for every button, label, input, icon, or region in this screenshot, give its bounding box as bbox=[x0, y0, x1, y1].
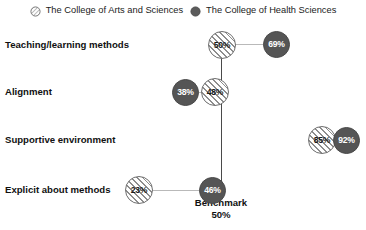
data-point-value: 85% bbox=[314, 136, 331, 145]
data-point-value: 50% bbox=[214, 41, 231, 50]
data-point-arts-alignment[interactable]: 48% bbox=[201, 78, 229, 106]
hatched-circle-icon bbox=[30, 6, 41, 17]
legend-label-health-sciences: The College of Health Sciences bbox=[206, 6, 336, 15]
data-point-value: 48% bbox=[207, 88, 224, 97]
data-point-health-teaching-learning-methods[interactable]: 69% bbox=[263, 31, 290, 58]
legend-label-arts-and-sciences: The College of Arts and Sciences bbox=[46, 6, 183, 15]
data-point-value: 23% bbox=[131, 186, 148, 195]
legend-entry-health-sciences: The College of Health Sciences bbox=[190, 6, 336, 17]
data-point-value: 38% bbox=[177, 88, 194, 97]
category-label-explicit-about-methods: Explicit about methods bbox=[5, 185, 111, 195]
chart-legend: The College of Arts and Sciences The Col… bbox=[0, 0, 366, 22]
data-point-value: 46% bbox=[204, 186, 221, 195]
data-point-arts-teaching-learning-methods[interactable]: 50% bbox=[208, 31, 236, 59]
category-label-alignment: Alignment bbox=[5, 87, 52, 97]
filled-circle-icon bbox=[190, 6, 201, 17]
chart-figure: The College of Arts and Sciences The Col… bbox=[0, 0, 366, 230]
data-point-value: 69% bbox=[268, 40, 285, 49]
plot-area: Benchmark 50% Teaching/learning methods … bbox=[0, 22, 366, 230]
data-point-arts-supportive-environment[interactable]: 85% bbox=[308, 126, 336, 154]
benchmark-caption-line2: 50% bbox=[211, 209, 230, 220]
data-point-arts-explicit-about-methods[interactable]: 23% bbox=[125, 176, 153, 204]
data-point-health-supportive-environment[interactable]: 92% bbox=[333, 127, 360, 154]
data-point-value: 92% bbox=[338, 136, 355, 145]
category-label-teaching-learning-methods: Teaching/learning methods bbox=[5, 40, 129, 50]
category-label-supportive-environment: Supportive environment bbox=[5, 135, 115, 145]
legend-entry-arts-and-sciences: The College of Arts and Sciences bbox=[30, 6, 183, 17]
benchmark-reference-line bbox=[221, 35, 222, 195]
data-point-health-alignment[interactable]: 38% bbox=[172, 79, 199, 106]
data-point-health-explicit-about-methods[interactable]: 46% bbox=[199, 177, 226, 204]
